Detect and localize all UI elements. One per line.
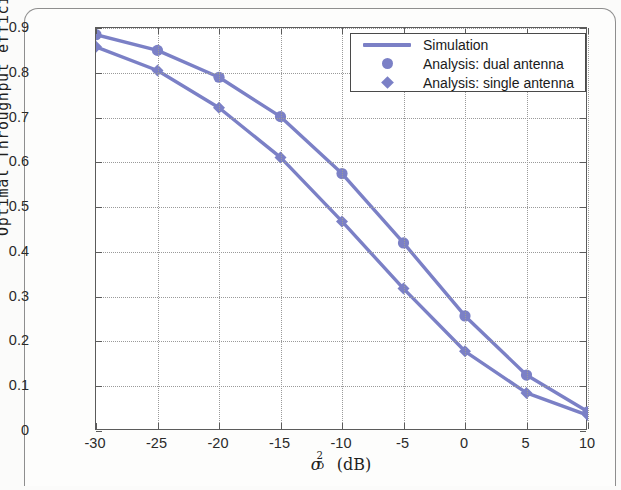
y-axis-tick-label: 0.7: [9, 109, 29, 125]
x-axis-tick: [588, 423, 589, 429]
x-axis-tick-label: -15: [269, 435, 290, 451]
legend-circle-icon: [382, 58, 393, 69]
x-axis-tick: [281, 28, 282, 34]
y-axis-tick: [580, 28, 586, 29]
data-point-circle: [398, 237, 409, 248]
y-axis-tick-label: 0.6: [9, 153, 29, 169]
x-axis-tick-label: -30: [85, 435, 106, 451]
x-axis-tick: [281, 423, 282, 429]
y-axis-tick: [96, 28, 102, 29]
x-axis-tick-label: -5: [396, 435, 409, 451]
x-axis-tick: [158, 423, 159, 429]
series-line: [96, 47, 588, 416]
legend-key: [351, 58, 423, 69]
y-axis-tick: [96, 252, 102, 253]
x-axis-tick: [342, 423, 343, 429]
legend-key: [351, 43, 423, 47]
x-axis-tick-label: -20: [208, 435, 229, 451]
legend-label: Analysis: dual antenna: [423, 56, 564, 72]
x-axis-tick-label: -25: [146, 435, 167, 451]
y-axis-tick: [96, 386, 102, 387]
y-axis-tick-label: 0.3: [9, 288, 29, 304]
x-axis-tick: [342, 28, 343, 34]
x-axis-tick: [404, 423, 405, 429]
data-point-diamond: [96, 41, 102, 53]
data-point-circle: [336, 168, 347, 179]
y-axis-tick: [580, 341, 586, 342]
legend-label: Simulation: [423, 37, 488, 53]
legend-diamond-icon: [381, 76, 394, 89]
y-axis-tick: [580, 118, 586, 119]
legend-key: [351, 78, 423, 87]
y-axis-tick: [96, 341, 102, 342]
legend-item: Analysis: dual antenna: [351, 54, 585, 73]
y-axis-tick: [96, 297, 102, 298]
y-axis-tick: [96, 207, 102, 208]
y-axis-tick: [580, 162, 586, 163]
data-point-circle: [521, 369, 532, 380]
legend-label: Analysis: single antenna: [423, 75, 574, 91]
y-axis-tick-label: 0: [21, 422, 29, 438]
y-axis-tick-label: 0.9: [9, 19, 29, 35]
y-axis-tick: [580, 431, 586, 432]
x-axis-tick: [527, 423, 528, 429]
y-axis-tick: [580, 386, 586, 387]
y-axis-tick-label: 0.8: [9, 64, 29, 80]
x-axis-tick-label: 10: [579, 435, 595, 451]
x-axis-tick: [588, 28, 589, 34]
y-axis-tick: [96, 162, 102, 163]
y-axis-tick: [580, 207, 586, 208]
legend-item: Analysis: single antenna: [351, 73, 585, 92]
data-point-circle: [213, 72, 224, 83]
y-axis-tick: [96, 118, 102, 119]
x-axis-title: σ2D(dB): [311, 455, 371, 474]
sigma-subscript: D: [316, 460, 324, 471]
data-point-circle: [275, 111, 286, 122]
y-axis-tick-label: 0.4: [9, 243, 29, 259]
data-point-circle: [459, 310, 470, 321]
figure-container: Optimal Throughput efficiency - τ σ2D(dB…: [0, 0, 621, 490]
legend-item: Simulation: [351, 35, 585, 54]
x-axis-tick: [158, 28, 159, 34]
y-axis-tick: [580, 252, 586, 253]
x-axis-tick-label: 5: [521, 435, 529, 451]
x-axis-tick: [219, 423, 220, 429]
y-axis-tick-label: 0.5: [9, 198, 29, 214]
x-axis-tick: [219, 28, 220, 34]
x-axis-tick: [96, 423, 97, 429]
x-axis-unit: (dB): [337, 455, 371, 474]
y-axis-tick: [96, 73, 102, 74]
y-axis-tick-label: 0.2: [9, 332, 29, 348]
x-axis-tick: [465, 423, 466, 429]
chart-legend: SimulationAnalysis: dual antennaAnalysis…: [350, 33, 586, 92]
x-axis-tick-label: 0: [460, 435, 468, 451]
legend-line-icon: [363, 43, 411, 47]
x-axis-tick-label: -10: [331, 435, 352, 451]
data-point-circle: [152, 45, 163, 56]
y-axis-tick-label: 0.1: [9, 377, 29, 393]
y-axis-tick: [96, 431, 102, 432]
y-axis-tick: [580, 297, 586, 298]
